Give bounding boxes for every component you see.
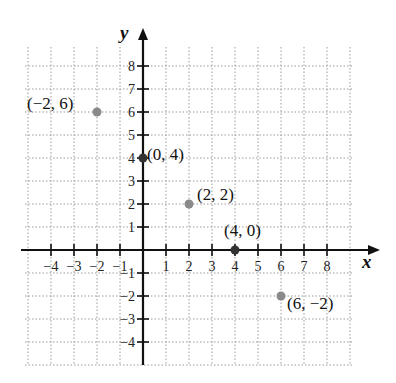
y-tick-label: −2 xyxy=(120,289,135,304)
data-point xyxy=(185,200,194,209)
x-tick-label: 3 xyxy=(209,259,216,274)
point-label-2-2: (2, 2) xyxy=(197,185,234,204)
y-axis-arrow-icon xyxy=(138,28,148,40)
y-tick-label: −4 xyxy=(120,335,135,350)
x-tick-label: 6 xyxy=(278,259,285,274)
x-tick-label: 7 xyxy=(301,259,308,274)
y-tick-label: −3 xyxy=(120,312,135,327)
data-point xyxy=(231,246,240,255)
data-point xyxy=(277,292,286,301)
data-point xyxy=(93,108,102,117)
y-tick-label: 6 xyxy=(128,105,135,120)
x-tick-label: 2 xyxy=(186,259,193,274)
point-label-6-neg2: (6, −2) xyxy=(287,294,333,313)
y-tick-label: 8 xyxy=(128,59,135,74)
x-tick-label: −4 xyxy=(44,259,59,274)
y-tick-label: 3 xyxy=(128,174,135,189)
y-tick-label: 2 xyxy=(128,197,135,212)
point-label-neg2-6: (−2, 6) xyxy=(27,94,73,113)
y-tick-label: 4 xyxy=(128,151,135,166)
x-tick-label: 1 xyxy=(163,259,170,274)
coordinate-plane: −4−3−2−112345678−4−3−2−112345678 x y (−2… xyxy=(0,0,396,383)
x-tick-label: −2 xyxy=(90,259,105,274)
y-tick-label: −1 xyxy=(120,266,135,281)
y-tick-label: 7 xyxy=(128,82,135,97)
x-tick-label: −3 xyxy=(67,259,82,274)
y-tick-label: 1 xyxy=(128,220,135,235)
x-axis-label: x xyxy=(361,251,372,272)
x-tick-label: 5 xyxy=(255,259,262,274)
y-axis-label: y xyxy=(118,22,129,43)
point-label-0-4: (0, 4) xyxy=(147,145,184,164)
x-tick-label: 4 xyxy=(232,259,239,274)
point-label-4-0: (4, 0) xyxy=(224,221,261,240)
y-tick-label: 5 xyxy=(128,128,135,143)
x-tick-label: 8 xyxy=(324,259,331,274)
